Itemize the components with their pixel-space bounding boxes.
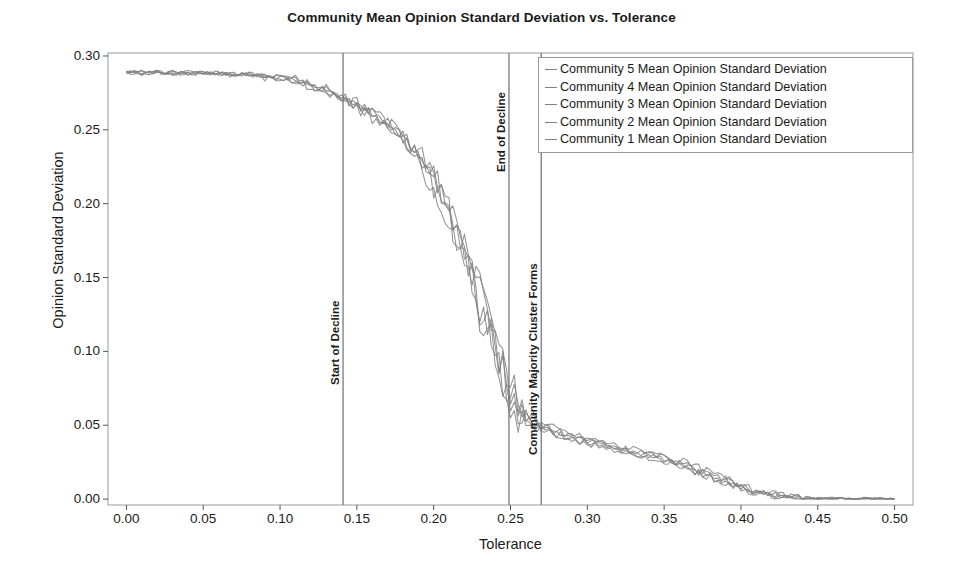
legend-line-icon [545, 139, 557, 140]
chart-legend: Community 5 Mean Opinion Standard Deviat… [538, 57, 913, 153]
y-tick-label: 0.25 [44, 122, 100, 137]
annotation-label: End of Decline [495, 92, 507, 172]
x-tick-label: 0.30 [557, 511, 617, 526]
legend-item-label: Community 3 Mean Opinion Standard Deviat… [560, 96, 827, 114]
x-tick-label: 0.05 [173, 511, 233, 526]
legend-item[interactable]: Community 2 Mean Opinion Standard Deviat… [545, 114, 908, 132]
x-tick-label: 0.35 [634, 511, 694, 526]
y-tick-label: 0.20 [44, 196, 100, 211]
legend-item-label: Community 4 Mean Opinion Standard Deviat… [560, 79, 827, 97]
legend-line-icon [545, 69, 557, 70]
legend-line-icon [545, 104, 557, 105]
y-axis-title: Opinion Standard Deviation [50, 120, 66, 360]
x-tick-label: 0.15 [327, 511, 387, 526]
x-axis-title: Tolerance [108, 536, 913, 552]
legend-item-label: Community 5 Mean Opinion Standard Deviat… [560, 61, 827, 79]
x-tick-label: 0.00 [96, 511, 156, 526]
legend-item-label: Community 1 Mean Opinion Standard Deviat… [560, 131, 827, 149]
x-tick-label: 0.50 [865, 511, 925, 526]
annotation-label: Community Majority Cluster Forms [527, 263, 539, 455]
legend-line-icon [545, 87, 557, 88]
legend-item-label: Community 2 Mean Opinion Standard Deviat… [560, 114, 827, 132]
y-tick-label: 0.05 [44, 417, 100, 432]
y-tick-label: 0.00 [44, 491, 100, 506]
y-tick-label: 0.15 [44, 270, 100, 285]
x-tick-label: 0.20 [404, 511, 464, 526]
x-tick-label: 0.10 [250, 511, 310, 526]
chart-figure: Community Mean Opinion Standard Deviatio… [0, 0, 963, 580]
x-tick-label: 0.25 [481, 511, 541, 526]
y-tick-label: 0.30 [44, 48, 100, 63]
legend-line-icon [545, 122, 557, 123]
y-tick-label: 0.10 [44, 343, 100, 358]
annotation-label: Start of Decline [329, 301, 341, 385]
legend-item[interactable]: Community 1 Mean Opinion Standard Deviat… [545, 131, 908, 149]
legend-item[interactable]: Community 5 Mean Opinion Standard Deviat… [545, 61, 908, 79]
legend-item[interactable]: Community 4 Mean Opinion Standard Deviat… [545, 79, 908, 97]
legend-item[interactable]: Community 3 Mean Opinion Standard Deviat… [545, 96, 908, 114]
x-tick-label: 0.45 [788, 511, 848, 526]
x-tick-label: 0.40 [711, 511, 771, 526]
